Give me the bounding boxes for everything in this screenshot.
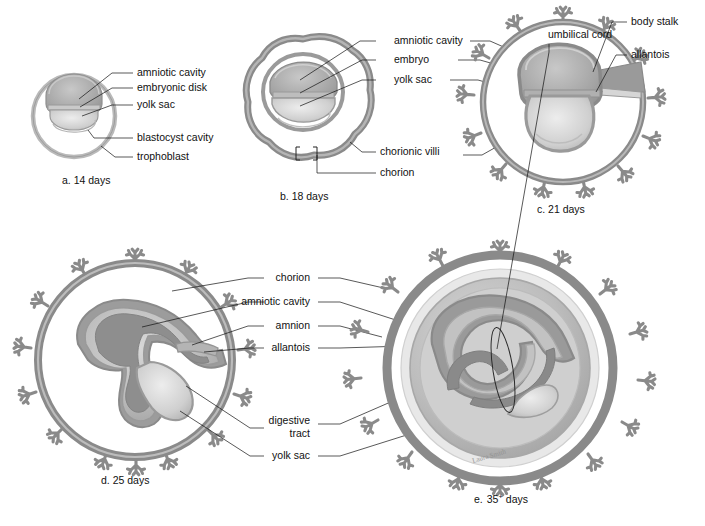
label-yolk-sac-a: yolk sac bbox=[137, 98, 175, 110]
label-amnion-d: amnion bbox=[276, 319, 311, 331]
label-amniotic-cavity-d: amniotic cavity bbox=[241, 295, 311, 307]
label-blastocyst-cavity-a: blastocyst cavity bbox=[137, 131, 214, 143]
label-allantois-c: allantois bbox=[631, 48, 670, 60]
label-digestive-tract-line1: digestive bbox=[269, 414, 311, 426]
label-chorion-d: chorion bbox=[276, 271, 311, 283]
caption-panel-a: a. 14 days bbox=[62, 174, 110, 186]
label-chorion-b: chorion bbox=[380, 166, 415, 178]
caption-e-letter: e. bbox=[474, 493, 483, 505]
label-umbilical-cord-e: umbilical cord bbox=[548, 28, 612, 40]
caption-e-superscript: + bbox=[498, 492, 503, 501]
caption-panel-b: b. 18 days bbox=[280, 190, 328, 202]
label-embryonic-disk-a: embryonic disk bbox=[137, 81, 208, 93]
label-body-stalk-c: body stalk bbox=[631, 15, 679, 27]
label-allantois-d: allantois bbox=[271, 341, 310, 353]
embryology-figure: amniotic cavity embryonic disk yolk sac … bbox=[0, 0, 705, 526]
caption-panel-d: d. 25 days bbox=[101, 474, 149, 486]
figure-canvas: amniotic cavity embryonic disk yolk sac … bbox=[0, 0, 705, 526]
label-digestive-tract-line2: tract bbox=[290, 427, 311, 439]
embryo-b bbox=[273, 92, 334, 98]
caption-e-number: 35 bbox=[487, 493, 499, 505]
label-yolk-sac-d: yolk sac bbox=[272, 449, 310, 461]
label-embryo-b: embryo bbox=[394, 53, 429, 65]
label-amniotic-cavity-a: amniotic cavity bbox=[137, 66, 207, 78]
label-amniotic-cavity-b: amniotic cavity bbox=[394, 34, 464, 46]
caption-panel-c: c. 21 days bbox=[537, 203, 585, 215]
embryonic-disk-a bbox=[48, 105, 100, 110]
caption-e-text: days bbox=[506, 493, 528, 505]
label-chorionic-villi-b: chorionic villi bbox=[380, 145, 440, 157]
label-yolk-sac-b: yolk sac bbox=[394, 73, 432, 85]
label-trophoblast-a: trophoblast bbox=[137, 150, 189, 162]
